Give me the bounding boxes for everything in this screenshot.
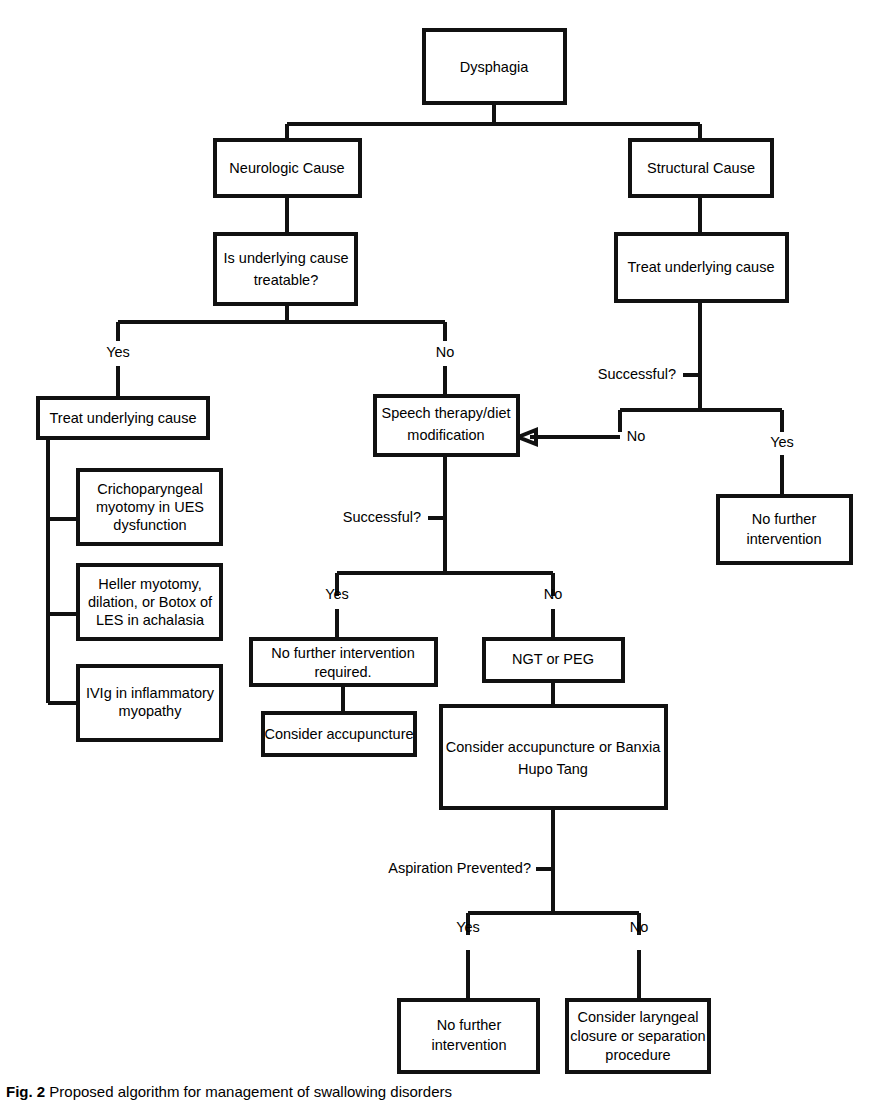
figure-caption: Fig. 2 Proposed algorithm for management… — [6, 1083, 871, 1102]
node-consider-accupuncture-banxia-line1: Consider accupuncture or Banxia — [446, 739, 661, 755]
edge-label-aspiration-prevented: Aspiration Prevented? — [388, 860, 531, 876]
node-crichopharyngeal-line3: dysfunction — [113, 517, 186, 533]
node-crichopharyngeal-line1: Crichoparyngeal — [97, 481, 203, 497]
node-is-underlying-treatable-line2: treatable? — [254, 272, 319, 288]
node-dysphagia[interactable]: Dysphagia — [424, 30, 565, 103]
node-neurologic-cause-label: Neurologic Cause — [229, 160, 344, 176]
node-speech-therapy-line2: modification — [407, 427, 484, 443]
edge-label-treatable-yes: Yes — [106, 344, 130, 360]
node-ngt-or-peg-label: NGT or PEG — [512, 651, 594, 667]
node-consider-accupuncture-banxia-box[interactable] — [441, 706, 666, 808]
node-consider-laryngeal-line3: procedure — [605, 1047, 670, 1063]
node-is-underlying-treatable-box[interactable] — [215, 234, 356, 304]
node-consider-laryngeal-line2: closure or separation — [570, 1028, 705, 1044]
node-treat-underlying-cause-left-label: Treat underlying cause — [50, 410, 197, 426]
edge-aspiration-split — [468, 913, 639, 935]
node-no-further-intervention-bottom[interactable]: No further intervention — [399, 1000, 538, 1072]
node-consider-accupuncture-banxia-line2: Hupo Tang — [518, 761, 588, 777]
figure-caption-label: Fig. 2 — [6, 1083, 45, 1100]
node-heller-myotomy-line1: Heller myotomy, — [98, 576, 202, 592]
node-heller-myotomy-line2: dilation, or Botox of — [88, 594, 213, 610]
node-heller-myotomy-line3: LES in achalasia — [96, 612, 205, 628]
node-crichopharyngeal[interactable]: Crichoparyngeal myotomy in UES dysfuncti… — [78, 470, 221, 544]
edge-label-speech-yes: Yes — [325, 586, 349, 602]
node-consider-laryngeal[interactable]: Consider laryngeal closure or separation… — [567, 1000, 709, 1072]
edge-label-structural-yes: Yes — [770, 434, 794, 450]
edge-dysphagia-split — [287, 103, 700, 140]
edge-label-aspiration-yes: Yes — [456, 919, 480, 935]
node-treat-underlying-cause-left[interactable]: Treat underlying cause — [38, 398, 208, 438]
node-structural-cause[interactable]: Structural Cause — [630, 140, 772, 196]
node-consider-accupuncture[interactable]: Consider accupuncture — [263, 713, 415, 755]
edge-speech-successful-split — [337, 573, 553, 596]
node-consider-laryngeal-line1: Consider laryngeal — [578, 1009, 699, 1025]
node-consider-accupuncture-label: Consider accupuncture — [264, 726, 413, 742]
edge-label-treatable-no: No — [436, 344, 455, 360]
node-consider-accupuncture-banxia[interactable]: Consider accupuncture or Banxia Hupo Tan… — [441, 706, 666, 808]
node-is-underlying-treatable[interactable]: Is underlying cause treatable? — [215, 234, 356, 304]
node-ivig-line2: myopathy — [119, 703, 183, 719]
edge-label-aspiration-no: No — [630, 919, 649, 935]
node-no-further-intervention-bottom-line2: intervention — [432, 1037, 507, 1053]
node-is-underlying-treatable-line1: Is underlying cause — [224, 250, 349, 266]
node-no-further-intervention-required-line1: No further intervention — [271, 645, 414, 661]
figure-caption-text: Proposed algorithm for management of swa… — [49, 1083, 452, 1100]
node-crichopharyngeal-line2: myotomy in UES — [96, 499, 204, 515]
node-structural-cause-label: Structural Cause — [647, 160, 755, 176]
node-treat-underlying-cause-right-label: Treat underlying cause — [628, 259, 775, 275]
node-neurologic-cause[interactable]: Neurologic Cause — [215, 140, 360, 196]
node-ngt-or-peg[interactable]: NGT or PEG — [484, 639, 623, 681]
edge-label-structural-no: No — [627, 428, 646, 444]
node-no-further-intervention-right[interactable]: No further intervention — [718, 496, 851, 563]
edge-label-structural-successful: Successful? — [598, 366, 676, 382]
edge-label-speech-successful: Successful? — [343, 509, 421, 525]
node-heller-myotomy[interactable]: Heller myotomy, dilation, or Botox of LE… — [78, 565, 221, 639]
edge-label-speech-no: No — [544, 586, 563, 602]
edge-treatable-split — [118, 304, 445, 341]
node-dysphagia-label: Dysphagia — [460, 59, 529, 75]
node-speech-therapy[interactable]: Speech therapy/diet modification — [375, 396, 518, 455]
node-ivig[interactable]: IVIg in inflammatory myopathy — [78, 666, 221, 740]
node-no-further-intervention-right-box[interactable] — [718, 496, 851, 563]
node-ivig-line1: IVIg in inflammatory — [86, 685, 215, 701]
node-speech-therapy-line1: Speech therapy/diet — [382, 405, 511, 421]
node-no-further-intervention-right-line2: intervention — [747, 531, 822, 547]
node-no-further-intervention-required[interactable]: No further intervention required. — [251, 639, 436, 685]
node-no-further-intervention-required-line2: required. — [314, 664, 371, 680]
node-treat-underlying-cause-right[interactable]: Treat underlying cause — [616, 234, 787, 301]
node-no-further-intervention-bottom-line1: No further — [437, 1017, 502, 1033]
node-no-further-intervention-right-line1: No further — [752, 511, 817, 527]
